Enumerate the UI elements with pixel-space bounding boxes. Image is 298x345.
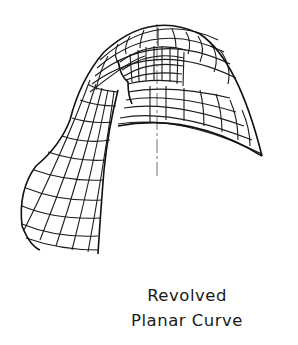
caption-line-2: Planar Curve [112,308,262,333]
revolved-surface-figure [0,0,298,260]
caption-line-1: Revolved [112,283,262,308]
figure-caption: Revolved Planar Curve [112,283,262,333]
left-front-edge [98,90,118,254]
